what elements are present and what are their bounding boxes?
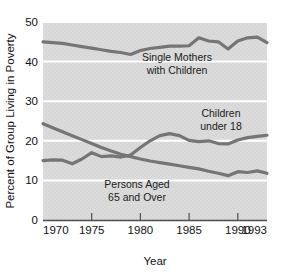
annotation-children-line1: Children [201, 107, 240, 119]
y-tick-label: 50 [25, 16, 38, 28]
y-tick-label: 0 [32, 214, 38, 226]
annotation-seniors-line1: Persons Aged [104, 178, 170, 190]
annotation-single-mothers-line1: Single Mothers [142, 51, 212, 63]
y-tick-label: 40 [25, 56, 38, 68]
x-tick-label: 1970 [43, 224, 69, 236]
y-tick-label: 30 [25, 95, 38, 107]
y-tick-label: 20 [25, 135, 38, 147]
y-axis-title: Percent of Group Living in Poverty [4, 33, 16, 208]
annotation-children: Children under 18 [200, 107, 242, 132]
x-tick-label: 1975 [79, 224, 105, 236]
annotation-children-line2: under 18 [200, 120, 242, 132]
x-tick-label: 1985 [176, 224, 202, 236]
chart-svg: 01020304050 197019751980198519901993 Sin… [0, 0, 289, 272]
annotation-single-mothers-line2: with Children [146, 64, 208, 76]
x-axis-title: Year [143, 255, 166, 267]
annotation-seniors-line2: 65 and Over [108, 191, 166, 203]
annotation-seniors: Persons Aged 65 and Over [104, 178, 170, 203]
x-axis-tick-labels: 197019751980198519901993 [43, 224, 267, 236]
y-tick-label: 10 [25, 174, 38, 186]
x-tick-label: 1980 [128, 224, 154, 236]
poverty-line-chart: 01020304050 197019751980198519901993 Sin… [0, 0, 289, 272]
y-axis-tick-labels: 01020304050 [25, 16, 38, 226]
annotation-single-mothers: Single Mothers with Children [142, 51, 212, 76]
x-tick-label: 1993 [241, 224, 267, 236]
